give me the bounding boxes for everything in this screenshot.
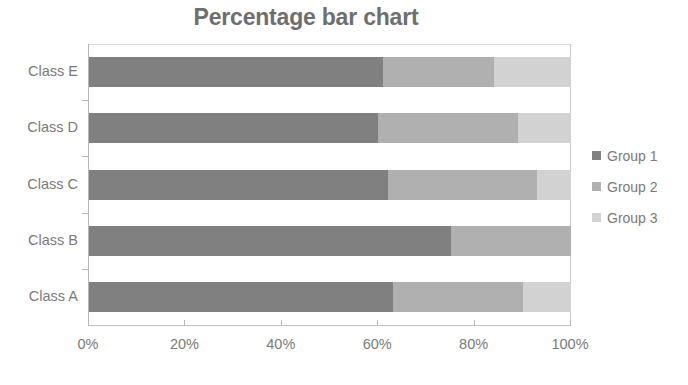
- x-axis-label-60: 60%: [363, 336, 392, 352]
- y-axis-label-class-e: Class E: [0, 63, 78, 79]
- legend-swatch-icon-group-3: [592, 213, 601, 222]
- chart-legend: Group 1Group 2Group 3: [592, 140, 684, 233]
- x-axis-label-20: 20%: [170, 336, 199, 352]
- y-axis-labels: Class EClass DClass CClass BClass A: [0, 44, 88, 325]
- bar-segment-group-2: [378, 113, 518, 143]
- bar-segment-group-3: [518, 113, 571, 143]
- legend-swatch-icon-group-1: [592, 151, 601, 160]
- percentage-bar-chart: Percentage bar chart Class EClass DClass…: [0, 0, 688, 385]
- bar-segment-group-2: [388, 170, 537, 200]
- bar-segment-group-1: [89, 57, 383, 87]
- y-axis-label-class-d: Class D: [0, 119, 78, 135]
- bar-segment-group-1: [89, 226, 451, 256]
- legend-item-group-3[interactable]: Group 3: [592, 202, 684, 233]
- bar-segment-group-2: [451, 226, 572, 256]
- y-axis-label-class-a: Class A: [0, 288, 78, 304]
- legend-item-group-2[interactable]: Group 2: [592, 171, 684, 202]
- y-axis-tick: [82, 269, 88, 270]
- y-axis-tick: [82, 100, 88, 101]
- x-axis-tick: [377, 320, 378, 326]
- bar-segment-group-2: [393, 282, 523, 312]
- legend-item-group-1[interactable]: Group 1: [592, 140, 684, 171]
- chart-title: Percentage bar chart: [0, 4, 612, 31]
- legend-label-group-3: Group 3: [607, 210, 658, 226]
- bar-segment-group-1: [89, 113, 378, 143]
- bar-row: [89, 57, 571, 87]
- y-axis-label-class-c: Class C: [0, 176, 78, 192]
- x-axis-label-80: 80%: [459, 336, 488, 352]
- y-axis-tick: [82, 213, 88, 214]
- legend-label-group-1: Group 1: [607, 148, 658, 164]
- plot-top-rule: [89, 44, 571, 45]
- x-axis-tick: [184, 320, 185, 326]
- x-axis-line: [88, 325, 571, 326]
- x-axis-tick: [281, 320, 282, 326]
- bar-row: [89, 170, 571, 200]
- bar-row: [89, 113, 571, 143]
- x-axis-label-0: 0%: [78, 336, 99, 352]
- bar-segment-group-1: [89, 170, 388, 200]
- bar-segment-group-3: [537, 170, 571, 200]
- x-axis-tick: [88, 320, 89, 326]
- bar-row: [89, 226, 571, 256]
- y-axis-label-class-b: Class B: [0, 232, 78, 248]
- bar-segment-group-3: [494, 57, 571, 87]
- x-axis-label-100: 100%: [551, 336, 588, 352]
- x-axis-label-40: 40%: [266, 336, 295, 352]
- x-axis-tick: [570, 320, 571, 326]
- bar-segment-group-3: [523, 282, 571, 312]
- bar-row: [89, 282, 571, 312]
- bar-segment-group-1: [89, 282, 393, 312]
- legend-swatch-icon-group-2: [592, 182, 601, 191]
- bar-segment-group-2: [383, 57, 494, 87]
- plot-area: [88, 44, 570, 325]
- y-axis-tick: [82, 156, 88, 157]
- x-axis-tick: [474, 320, 475, 326]
- legend-label-group-2: Group 2: [607, 179, 658, 195]
